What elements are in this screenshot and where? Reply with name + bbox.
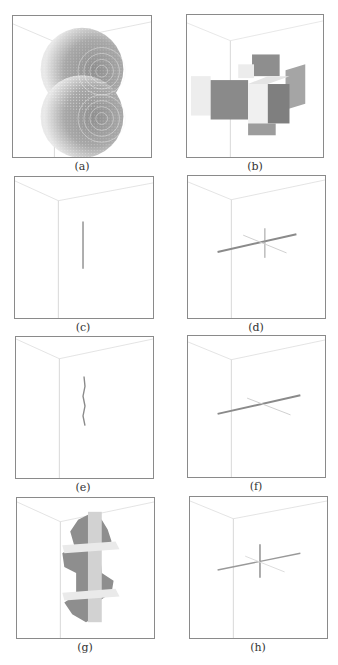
caption-g: (g): [55, 641, 115, 654]
panel-b: [186, 14, 324, 158]
caption-d: (d): [226, 321, 286, 334]
panel-h: [189, 496, 328, 639]
caption-h: (h): [228, 641, 288, 654]
panel-d: [187, 175, 326, 319]
caption-b: (b): [225, 160, 285, 173]
caption-a: (a): [52, 160, 112, 173]
jagged-line-render: [16, 337, 153, 478]
panel-a: [12, 15, 152, 158]
vertical-line-render: [15, 177, 153, 318]
line-cross-render: [188, 176, 325, 318]
line-cross-render: [188, 336, 325, 477]
panel-f: [187, 335, 326, 478]
panel-g: [16, 497, 155, 639]
two-spheres-render: [13, 16, 151, 157]
caption-f: (f): [226, 480, 286, 493]
line-cross-render: [190, 497, 327, 638]
panel-e: [15, 336, 154, 479]
voxel-skeleton-render: [17, 498, 154, 638]
caption-c: (c): [53, 321, 113, 334]
caption-e: (e): [53, 481, 113, 494]
panel-c: [14, 176, 154, 319]
cube-cross-render: [187, 15, 323, 157]
